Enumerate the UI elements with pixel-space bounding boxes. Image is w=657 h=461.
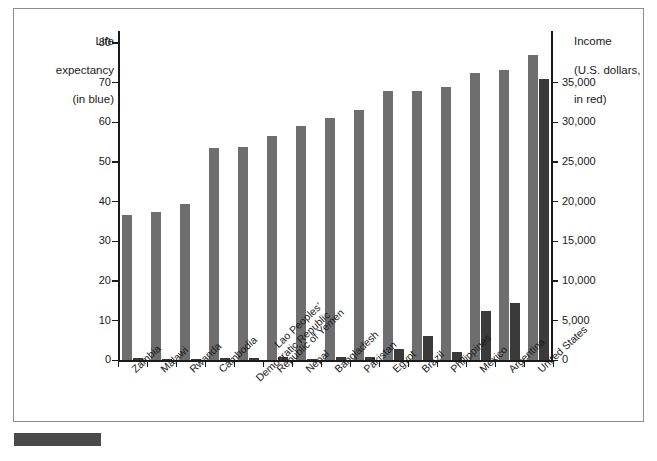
- left-tick-label: 40: [51, 195, 111, 207]
- right-axis-title-line-3: in red): [574, 92, 657, 107]
- right-tick-label: 15,000: [562, 234, 632, 246]
- right-tick-label: 10,000: [562, 274, 632, 286]
- x-axis-category-labels: ZambiaMalawiRwandaCambodiaLao Peoples'De…: [118, 364, 578, 461]
- bar-life-expectancy: [151, 212, 161, 360]
- left-tick-label: 30: [51, 234, 111, 246]
- right-axis-title-line-1: Income: [574, 34, 657, 49]
- bar-life-expectancy: [412, 91, 422, 360]
- right-tick-label: 25,000: [562, 155, 632, 167]
- bar-income: [539, 79, 549, 360]
- left-axis-title: Life expectancy (in blue): [22, 19, 114, 121]
- bar-life-expectancy: [122, 215, 132, 361]
- left-tick-label: 0: [51, 353, 111, 365]
- bar-life-expectancy: [180, 204, 190, 361]
- right-tick-label: 30,000: [562, 115, 632, 127]
- bar-life-expectancy: [354, 110, 364, 360]
- left-axis-title-line-3: (in blue): [22, 92, 114, 107]
- bar-life-expectancy: [441, 87, 451, 360]
- left-tick-label: 20: [51, 274, 111, 286]
- bar-life-expectancy: [499, 70, 509, 361]
- left-tick-label: 60: [51, 115, 111, 127]
- right-tick-label: 20,000: [562, 195, 632, 207]
- bar-life-expectancy: [528, 55, 538, 361]
- right-tick-label: 35,000: [562, 76, 632, 88]
- right-axis-title: Income (U.S. dollars, in red): [574, 19, 657, 121]
- right-tick-label: 5,000: [562, 314, 632, 326]
- bar-income: [510, 303, 520, 360]
- footer-swatch: [14, 433, 101, 446]
- figure-frame: Life expectancy (in blue) Income (U.S. d…: [13, 8, 644, 422]
- bar-life-expectancy: [383, 91, 393, 361]
- bar-life-expectancy: [267, 136, 277, 361]
- left-tick-label: 10: [51, 314, 111, 326]
- left-tick-label: 80: [51, 36, 111, 48]
- bar-life-expectancy: [238, 147, 248, 361]
- left-tick-label: 50: [51, 155, 111, 167]
- chart-screenshot: Life expectancy (in blue) Income (U.S. d…: [0, 0, 657, 461]
- bar-life-expectancy: [470, 73, 480, 361]
- left-tick-label: 70: [51, 76, 111, 88]
- bar-life-expectancy: [209, 148, 219, 360]
